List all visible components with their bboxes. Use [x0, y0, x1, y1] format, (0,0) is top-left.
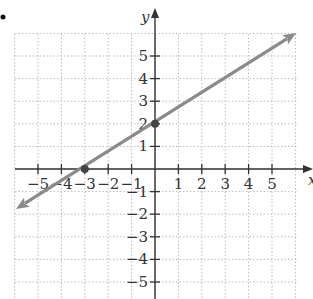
x-tick-label: 4: [244, 175, 254, 193]
x-tick-label: −2: [97, 175, 119, 193]
x-axis-label: x: [308, 171, 313, 189]
x-tick-label: 5: [267, 175, 277, 193]
y-tick-label: 1: [138, 137, 148, 155]
y-tick-label: 4: [138, 70, 148, 88]
y-tick-label: −4: [126, 250, 148, 268]
y-axis-arrow-icon: [151, 8, 159, 18]
bullet-dot: [1, 15, 6, 20]
x-tick-label: 1: [174, 175, 184, 193]
y-tick-label: 3: [138, 92, 148, 110]
coordinate-plane: −5−4−3−2−112345 54321−1−2−3−4−5 y x: [0, 0, 313, 299]
y-tick-label: −2: [126, 205, 148, 223]
y-tick-label: −5: [126, 273, 148, 291]
y-axis-label: y: [140, 8, 150, 26]
y-tick-label: −1: [126, 183, 148, 201]
x-tick-label: 2: [197, 175, 207, 193]
intercept-point: [81, 165, 89, 173]
y-tick-label: −3: [126, 228, 148, 246]
x-tick-label: −3: [74, 175, 96, 193]
x-tick-label: 3: [220, 175, 230, 193]
intercept-point: [151, 120, 159, 128]
y-tick-label: 5: [138, 47, 148, 65]
